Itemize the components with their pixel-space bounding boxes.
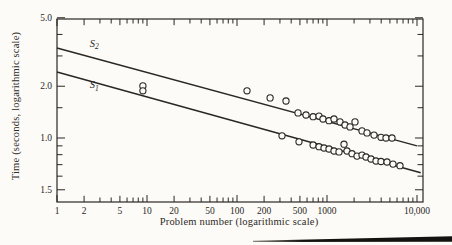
- s2-data-point: [310, 114, 316, 120]
- s1-data-point: [336, 149, 342, 155]
- s1-data-point: [397, 163, 403, 169]
- s2-data-point: [267, 95, 273, 101]
- x-tick-label: 50: [205, 206, 215, 216]
- s2-data-point: [383, 135, 389, 141]
- s1-data-point: [279, 133, 285, 139]
- x-tick-label: 100: [230, 206, 245, 216]
- s2-label: S2: [90, 38, 99, 52]
- s1-data-point: [310, 142, 316, 148]
- s2-data-point: [389, 135, 395, 141]
- s1-data-point: [296, 139, 302, 145]
- x-tick-label: 5: [118, 206, 123, 216]
- log-log-practice-figure: 125102050100200500100010,0005.02.01.01.5…: [0, 0, 452, 245]
- s2-data-point: [320, 116, 326, 122]
- s1-data-point: [140, 88, 146, 94]
- s1-data-point: [341, 141, 347, 147]
- y-tick-label: 1.5: [40, 185, 52, 195]
- x-tick-label: 10,000: [404, 206, 430, 216]
- s2-data-point: [352, 119, 358, 125]
- x-tick-label: 20: [169, 206, 179, 216]
- x-tick-label: 1: [55, 206, 60, 216]
- s2-data-point: [283, 98, 289, 104]
- y-tick-label: 2.0: [40, 81, 52, 91]
- x-tick-label: 10: [142, 206, 152, 216]
- plot-border: [57, 19, 423, 202]
- s2-data-point: [371, 132, 377, 138]
- s1-data-point: [390, 161, 396, 167]
- x-axis-title: Problem number (logarithmic scale): [58, 216, 420, 227]
- chart-plot: 125102050100200500100010,0005.02.01.01.5…: [0, 0, 452, 245]
- page-rule: [253, 236, 452, 242]
- y-tick-label: 1.0: [40, 133, 52, 143]
- y-tick-label: 5.0: [40, 13, 52, 23]
- s2-data-point: [244, 88, 250, 94]
- s1-label: S1: [90, 79, 99, 93]
- x-tick-label: 500: [293, 206, 308, 216]
- s2-data-point: [295, 110, 301, 116]
- s1-data-point: [378, 158, 384, 164]
- x-tick-label: 1000: [318, 206, 337, 216]
- s2-data-point: [331, 116, 337, 122]
- s1-data-point: [384, 159, 390, 165]
- s2-data-point: [303, 112, 309, 118]
- s2-data-point: [347, 124, 353, 130]
- y-axis-title: Time (seconds, logarithmic scale): [10, 32, 21, 181]
- s2-data-point: [364, 130, 370, 136]
- x-tick-label: 200: [257, 206, 272, 216]
- x-tick-label: 2: [82, 206, 87, 216]
